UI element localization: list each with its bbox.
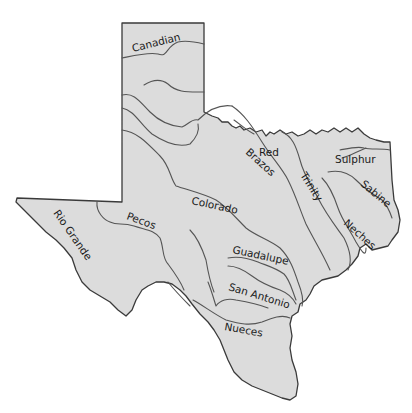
texas-rivers-map: Canadian Red Sulphur Brazos Trinity Sabi…: [0, 0, 412, 413]
label-sulphur: Sulphur: [335, 153, 376, 165]
map-canvas: Canadian Red Sulphur Brazos Trinity Sabi…: [0, 0, 412, 413]
texas-outline: [16, 23, 400, 400]
